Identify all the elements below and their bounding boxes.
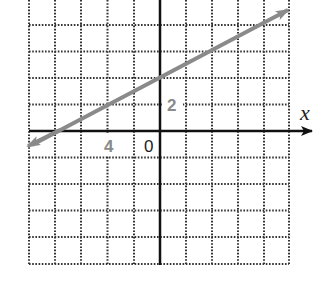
y-tick-label: 2 — [167, 96, 176, 115]
origin-label: 0 — [144, 137, 153, 156]
x-axis-label: x — [299, 100, 310, 125]
x-tick-label: 4 — [104, 137, 114, 156]
coordinate-graph: 2 4 0 x — [0, 0, 326, 284]
